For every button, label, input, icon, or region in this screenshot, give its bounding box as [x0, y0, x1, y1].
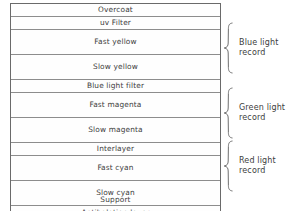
group-label: Blue light record [239, 38, 278, 59]
layer-row-blue-light-filter: Blue light filter [11, 80, 220, 93]
group-label: Red light record [239, 156, 276, 177]
group-blue-light-record: Blue light record [221, 22, 278, 74]
layer-label: Fast yellow [94, 38, 136, 45]
layer-label: Slow yellow [93, 63, 138, 70]
layer-row-slow-magenta: Slow magenta [11, 118, 220, 143]
group-green-light-record: Green light record [221, 87, 285, 139]
group-red-light-record: Red light record [221, 140, 276, 192]
curly-brace-icon [221, 140, 235, 192]
layer-row-interlayer: Interlayer [11, 143, 220, 156]
layer-label: Interlayer [97, 145, 134, 152]
curly-brace-icon [221, 22, 235, 74]
layer-row-fast-yellow: Fast yellow [11, 30, 220, 55]
layer-label: Fast magenta [89, 101, 141, 108]
layer-label: Antihalation layer [81, 209, 149, 211]
layer-label: uv Filter [100, 19, 131, 26]
layer-row-overcoat: Overcoat [11, 4, 220, 17]
group-label: Green light record [239, 103, 285, 124]
layer-row-slow-yellow: Slow yellow [11, 55, 220, 80]
layer-row-uv-filter: uv Filter [11, 17, 220, 30]
layer-label: Slow magenta [88, 126, 143, 133]
layer-label: Fast cyan [97, 164, 133, 171]
layer-row-fast-magenta: Fast magenta [11, 93, 220, 118]
layer-label: Blue light filter [87, 82, 144, 89]
layer-stack: Overcoat uv Filter Fast yellow Slow yell… [10, 3, 221, 211]
support-caption: Support [10, 196, 221, 203]
curly-brace-icon [221, 87, 235, 139]
film-layer-diagram: Overcoat uv Filter Fast yellow Slow yell… [0, 0, 293, 211]
layer-row-antihalation-layer: Antihalation layer [11, 206, 220, 211]
layer-label: Overcoat [98, 6, 133, 13]
layer-row-fast-cyan: Fast cyan [11, 156, 220, 181]
